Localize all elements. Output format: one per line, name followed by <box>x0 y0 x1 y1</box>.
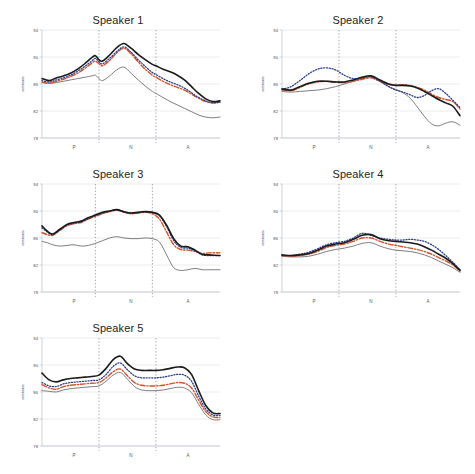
y-tick-label: 90 <box>33 363 38 368</box>
y-tick-label: 78 <box>273 290 278 295</box>
x-tick-label: P <box>313 299 316 304</box>
x-tick-label: N <box>369 145 372 150</box>
y-tick-label: 78 <box>33 290 38 295</box>
y-tick-label: 94 <box>273 182 278 187</box>
y-tick-label: 90 <box>273 55 278 60</box>
x-tick-label: A <box>186 453 190 458</box>
x-tick-label: A <box>186 145 190 150</box>
y-tick-label: 86 <box>33 236 38 241</box>
x-tick-label: N <box>129 453 132 458</box>
y-tick-label: 86 <box>273 236 278 241</box>
y-tick-label: 94 <box>33 28 38 33</box>
y-tick-label: 94 <box>33 336 38 341</box>
x-tick-label: N <box>369 299 372 304</box>
x-tick-label: A <box>186 299 190 304</box>
x-tick-label: N <box>129 299 132 304</box>
y-tick-label: 82 <box>33 417 38 422</box>
panel-speaker-1: Speaker 17882869094semitonesPNA <box>2 14 234 164</box>
y-axis-title: semitones <box>21 76 25 92</box>
y-tick-label: 86 <box>33 390 38 395</box>
x-tick-label: P <box>73 145 76 150</box>
y-tick-label: 90 <box>273 209 278 214</box>
x-tick-label: P <box>73 299 76 304</box>
y-tick-label: 78 <box>273 136 278 141</box>
x-tick-label: A <box>426 145 430 150</box>
y-axis-title: semitones <box>21 230 25 246</box>
plot-area: 7882869094semitonesPNA <box>242 168 474 318</box>
speaker-panels-figure: Speaker 17882869094semitonesPNASpeaker 2… <box>0 0 475 474</box>
y-tick-label: 94 <box>273 28 278 33</box>
panel-speaker-5: Speaker 57882869094semitonesPNA <box>2 322 234 472</box>
panel-speaker-3: Speaker 37882869094semitonesPNA <box>2 168 234 318</box>
y-tick-label: 90 <box>33 55 38 60</box>
y-tick-label: 82 <box>33 263 38 268</box>
y-tick-label: 78 <box>33 444 38 449</box>
x-tick-label: N <box>129 145 132 150</box>
y-tick-label: 82 <box>273 109 278 114</box>
y-tick-label: 82 <box>33 109 38 114</box>
panel-speaker-2: Speaker 27882869094semitonesPNA <box>242 14 474 164</box>
plot-area: 7882869094semitonesPNA <box>2 322 234 472</box>
plot-area: 7882869094semitonesPNA <box>2 168 234 318</box>
y-tick-label: 86 <box>33 82 38 87</box>
plot-area: 7882869094semitonesPNA <box>242 14 474 164</box>
panel-speaker-4: Speaker 47882869094semitonesPNA <box>242 168 474 318</box>
y-axis-title: semitones <box>261 230 265 246</box>
plot-area: 7882869094semitonesPNA <box>2 14 234 164</box>
y-tick-label: 78 <box>33 136 38 141</box>
y-tick-label: 94 <box>33 182 38 187</box>
y-axis-title: semitones <box>21 384 25 400</box>
y-axis-title: semitones <box>261 76 265 92</box>
y-tick-label: 86 <box>273 82 278 87</box>
x-tick-label: A <box>426 299 430 304</box>
x-tick-label: P <box>313 145 316 150</box>
y-tick-label: 90 <box>33 209 38 214</box>
x-tick-label: P <box>73 453 76 458</box>
y-tick-label: 82 <box>273 263 278 268</box>
